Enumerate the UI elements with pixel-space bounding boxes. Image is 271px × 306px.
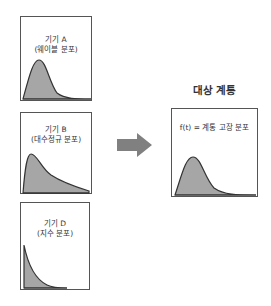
target-system-title: 대상 계통 <box>171 82 258 97</box>
device-b-box: 기기 B (대수정규 분포) <box>20 112 92 194</box>
exponential-curve-icon <box>21 203 91 291</box>
device-d-box: 기기 D (지수 분포) <box>20 202 90 290</box>
device-a-box: 기기 A (웨이블 분포) <box>20 16 92 101</box>
lognormal-curve-icon <box>21 113 93 195</box>
system-failure-curve-icon <box>172 109 259 198</box>
weibull-curve-icon <box>21 17 93 102</box>
target-system-box: f(t) = 계통 고장 분포 <box>171 108 258 197</box>
right-arrow-icon <box>117 133 153 157</box>
